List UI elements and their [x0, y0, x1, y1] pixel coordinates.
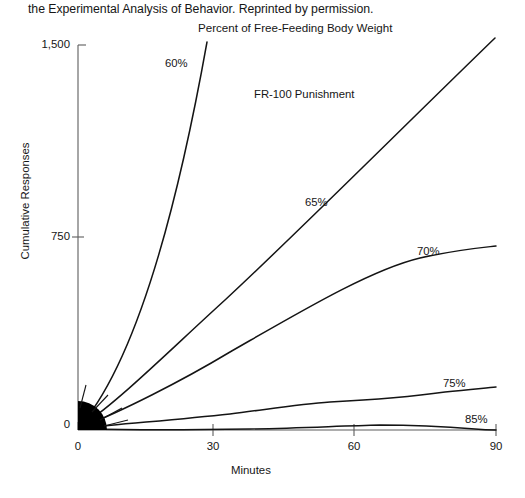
axis-group [72, 45, 496, 436]
series-label-60: 60% [165, 57, 188, 69]
chart-title: Percent of Free-Feeding Body Weight [198, 21, 392, 34]
y-tick-label-0: 0 [24, 418, 70, 430]
cumulative-response-chart [0, 0, 525, 498]
series-label-65: 65% [305, 196, 328, 208]
x-tick-label-90: 90 [482, 440, 510, 452]
series-label-70: 70% [417, 245, 440, 257]
series-line-60 [82, 42, 207, 424]
x-tick-label-60: 60 [340, 440, 368, 452]
series-label-75: 75% [443, 377, 466, 389]
y-tick-label-1500: 1,500 [24, 38, 70, 50]
series-label-85: 85% [465, 413, 488, 425]
response-burst-fill [78, 401, 107, 430]
x-tick-label-30: 30 [199, 440, 227, 452]
series-line-70 [84, 246, 496, 426]
condition-label: FR-100 Punishment [254, 88, 354, 100]
x-axis-title: Minutes [231, 464, 271, 476]
y-axis-title: Cumulative Responses [19, 136, 31, 266]
x-tick-label-0: 0 [64, 440, 92, 452]
series-line-85 [86, 425, 496, 430]
series-line-75 [85, 387, 496, 428]
